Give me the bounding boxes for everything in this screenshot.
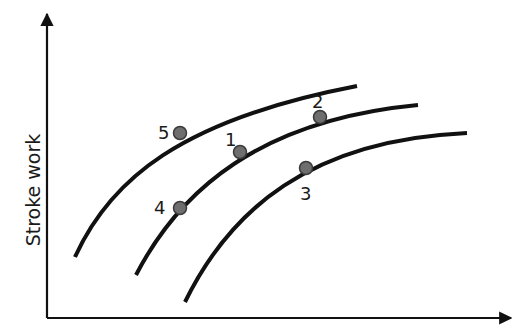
point-label-5: 5 [158,122,169,143]
point-5 [174,127,187,140]
stroke-work-diagram: Stroke work 5 1 2 4 3 [0,0,514,330]
point-label-3: 3 [300,183,311,204]
point-2 [314,111,327,124]
y-axis-label: Stroke work [22,134,44,247]
point-label-1: 1 [225,129,236,150]
point-3 [300,162,313,175]
point-label-4: 4 [154,197,165,218]
point-4 [174,202,187,215]
point-label-2: 2 [312,91,323,112]
lower-curve [185,133,467,302]
